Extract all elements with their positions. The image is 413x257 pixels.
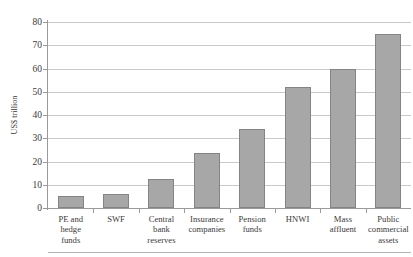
x-axis-labels: PE andhedgefundsSWFCentralbankreservesIn… xyxy=(48,208,411,257)
x-axis-label: Massaffluent xyxy=(320,214,365,235)
x-axis-label-line: Insurance xyxy=(184,214,229,224)
x-axis-label-line: bank xyxy=(139,224,184,234)
bar-slot xyxy=(184,22,229,208)
bars-layer xyxy=(48,22,411,208)
y-tick-label-0: 0 xyxy=(18,203,42,213)
bar[interactable] xyxy=(330,69,356,209)
y-tick-label-70: 70 xyxy=(18,40,42,50)
x-axis-bottom-rule xyxy=(48,252,411,253)
y-tick-label-50: 50 xyxy=(18,87,42,97)
x-axis-label-line: Mass xyxy=(320,214,365,224)
y-tick-label-40: 40 xyxy=(18,110,42,120)
y-tick-mark-0 xyxy=(43,208,47,209)
x-axis-label-line: SWF xyxy=(93,214,138,224)
bar-slot xyxy=(139,22,184,208)
y-tick-mark-60 xyxy=(43,69,47,70)
x-tick-separator xyxy=(93,208,94,213)
bar-slot xyxy=(366,22,411,208)
bar-chart: US$ trillion 80706050403020100 PE andhed… xyxy=(0,0,413,257)
x-tick-separator xyxy=(230,208,231,213)
x-axis-label: Pensionfunds xyxy=(230,214,275,235)
y-tick-mark-80 xyxy=(43,22,47,23)
x-tick-separator xyxy=(139,208,140,213)
y-tick-mark-40 xyxy=(43,115,47,116)
bar[interactable] xyxy=(148,179,174,208)
x-tick-separator xyxy=(320,208,321,213)
y-tick-mark-20 xyxy=(43,162,47,163)
y-tick-label-20: 20 xyxy=(18,157,42,167)
bar-slot xyxy=(48,22,93,208)
bar-slot xyxy=(275,22,320,208)
y-axis-tick-labels: 80706050403020100 xyxy=(12,0,42,257)
x-tick-separator xyxy=(275,208,276,213)
bar-slot xyxy=(230,22,275,208)
bar[interactable] xyxy=(194,153,220,208)
x-axis-label-line: companies xyxy=(184,224,229,234)
x-axis-label-line: PE and xyxy=(48,214,93,224)
bar[interactable] xyxy=(375,34,401,208)
y-tick-mark-30 xyxy=(43,138,47,139)
y-tick-label-30: 30 xyxy=(18,133,42,143)
x-axis-label-line: Public xyxy=(366,214,411,224)
x-axis-label: Centralbankreserves xyxy=(139,214,184,245)
y-tick-mark-50 xyxy=(43,92,47,93)
y-tick-label-80: 80 xyxy=(18,17,42,27)
x-tick-separator xyxy=(366,208,367,213)
x-axis-label-line: hedge xyxy=(48,224,93,234)
x-axis-label-line: affluent xyxy=(320,224,365,234)
x-tick-separator xyxy=(184,208,185,213)
x-axis-label: SWF xyxy=(93,214,138,224)
y-tick-label-60: 60 xyxy=(18,64,42,74)
bar-slot xyxy=(320,22,365,208)
bar[interactable] xyxy=(239,129,265,208)
x-axis-label-line: funds xyxy=(230,224,275,234)
y-tick-mark-10 xyxy=(43,185,47,186)
bar[interactable] xyxy=(103,194,129,208)
x-axis-label: Insurancecompanies xyxy=(184,214,229,235)
x-axis-label: HNWI xyxy=(275,214,320,224)
bar[interactable] xyxy=(58,196,84,208)
x-axis-label-line: HNWI xyxy=(275,214,320,224)
y-tick-mark-70 xyxy=(43,45,47,46)
bar[interactable] xyxy=(285,87,311,208)
x-axis-label-line: assets xyxy=(366,235,411,245)
x-axis-label: PE andhedgefunds xyxy=(48,214,93,245)
x-axis-label-line: Pension xyxy=(230,214,275,224)
x-axis-label-line: commercial xyxy=(366,224,411,234)
bar-slot xyxy=(93,22,138,208)
x-axis-label-line: Central xyxy=(139,214,184,224)
x-axis-label-line: funds xyxy=(48,235,93,245)
x-axis-label-line: reserves xyxy=(139,235,184,245)
y-tick-label-10: 10 xyxy=(18,180,42,190)
x-axis-label: Publiccommercialassets xyxy=(366,214,411,245)
